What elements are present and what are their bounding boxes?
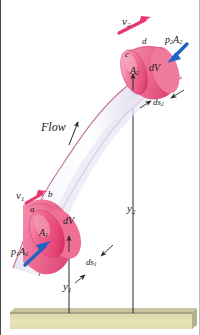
label-v1: v1 xyxy=(16,190,24,202)
label-v2: v2 xyxy=(122,16,130,28)
label-ds2: ds2 xyxy=(153,98,164,108)
label-ds1: ds1 xyxy=(86,258,97,268)
label-A1: A1 xyxy=(39,228,48,239)
label-corner-c: c xyxy=(125,50,129,59)
label-dV-lower: dV xyxy=(63,216,74,226)
flow-arrow xyxy=(69,122,78,145)
label-A2: A2 xyxy=(130,66,139,77)
label-p1A1: p1A1 xyxy=(11,247,28,258)
label-dV-upper: dV xyxy=(149,63,160,73)
figure-canvas xyxy=(1,0,200,335)
label-corner-d: d xyxy=(142,37,147,46)
label-corner-a: a xyxy=(30,205,35,214)
label-y1: y1 xyxy=(63,281,71,293)
fluid-streamtube-figure: v2 d c p2A2 A2 dV ds2 Flow y2 v1 b a A1 … xyxy=(0,0,200,335)
label-y2: y2 xyxy=(127,203,135,215)
label-corner-b: b xyxy=(48,190,53,199)
label-flow: Flow xyxy=(41,121,66,133)
label-p2A2: p2A2 xyxy=(165,35,182,46)
ground-datum-bar xyxy=(10,308,197,329)
